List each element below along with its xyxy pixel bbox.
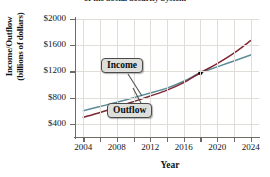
x-tick-mark: [234, 137, 235, 142]
x-tick-label: 2024: [231, 142, 270, 152]
y-tick-mark: [70, 71, 75, 72]
y-tick-label: $800: [28, 92, 66, 102]
y-tick-mark: [70, 19, 75, 20]
x-tick-mark: [134, 137, 135, 142]
x-tick-mark: [150, 137, 151, 142]
gridline-vertical: [100, 19, 101, 137]
x-tick-mark: [251, 137, 252, 142]
y-tick-label: $1200: [28, 65, 66, 75]
gridline-vertical: [117, 19, 118, 137]
x-tick-mark: [117, 137, 118, 142]
y-axis-title-line1: Income/Outflow: [4, 17, 14, 77]
y-axis-title-line2: (billions of dollars): [14, 0, 25, 108]
income-callout-label: Income: [101, 58, 143, 73]
y-axis-line: [75, 17, 76, 139]
x-tick-mark: [200, 137, 201, 142]
y-tick-mark: [70, 45, 75, 46]
gridline-vertical: [217, 19, 218, 137]
gridline-vertical: [167, 19, 168, 137]
x-tick-mark: [167, 137, 168, 142]
x-axis-title: Year: [75, 160, 265, 170]
y-tick-label: $1600: [28, 39, 66, 49]
y-tick-mark: [70, 98, 75, 99]
gridline-vertical: [150, 19, 151, 137]
x-tick-mark: [184, 137, 185, 142]
gridline-vertical: [251, 19, 252, 137]
gridline-vertical: [234, 19, 235, 137]
chart-figure: of the Social Security System Income/Out…: [0, 0, 270, 177]
gridline-vertical: [200, 19, 201, 137]
x-tick-mark: [100, 137, 101, 142]
gridline-vertical: [83, 19, 84, 137]
outflow-callout-label: Outflow: [107, 103, 152, 118]
chart-title: of the Social Security System: [0, 0, 270, 3]
gridline-vertical: [184, 19, 185, 137]
x-tick-mark: [217, 137, 218, 142]
gridline-vertical: [134, 19, 135, 137]
y-axis-title: Income/Outflow (billions of dollars): [4, 0, 25, 108]
y-tick-mark: [70, 124, 75, 125]
y-tick-label: $2000: [28, 13, 66, 23]
y-tick-label: $400: [28, 118, 66, 128]
x-tick-mark: [83, 137, 84, 142]
plot-area: [75, 19, 259, 137]
